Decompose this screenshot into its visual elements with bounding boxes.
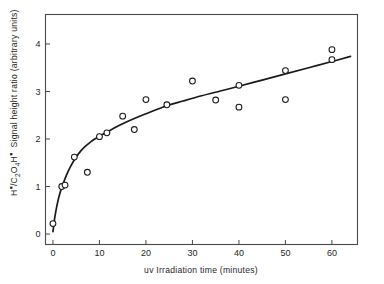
- data-point-marker: [329, 47, 335, 53]
- data-point-marker: [190, 78, 196, 84]
- y-tick-label: 1: [35, 182, 40, 192]
- data-point-marker: [283, 97, 289, 103]
- y-tick-label: 3: [35, 87, 40, 97]
- data-point-marker: [236, 104, 242, 110]
- data-point-marker: [164, 102, 170, 108]
- data-point-marker: [120, 113, 126, 119]
- y-title-h2-dot: ▪: [6, 153, 16, 156]
- y-tick-label: 4: [35, 39, 40, 49]
- data-point-marker: [283, 68, 289, 74]
- data-point-marker: [97, 134, 103, 140]
- data-point-marker: [71, 154, 77, 160]
- data-point-marker: [131, 127, 137, 133]
- data-point-marker: [143, 97, 149, 103]
- scatter-plot: 0102030405060 01234 uv Irradiation time …: [0, 0, 384, 284]
- data-point-marker: [104, 130, 110, 136]
- data-point-marker: [50, 221, 56, 227]
- y-title-slash: /C: [9, 177, 19, 186]
- data-point-marker: [213, 97, 219, 103]
- x-tick-label: 40: [234, 248, 244, 258]
- x-tick-label: 50: [280, 248, 290, 258]
- x-axis-title: uv Irradiation time (minutes): [144, 265, 258, 275]
- figure-container: 0102030405060 01234 uv Irradiation time …: [0, 0, 384, 284]
- x-tick-label: 30: [187, 248, 197, 258]
- y-title-o: O: [9, 166, 19, 173]
- svg-text:H▪/C2O4H▪Signal height ratio (: H▪/C2O4H▪Signal height ratio (arbitrary …: [6, 9, 21, 196]
- data-point-marker: [62, 182, 68, 188]
- x-tick-label: 0: [50, 248, 55, 258]
- y-axis-title: H▪/C2O4H▪Signal height ratio (arbitrary …: [6, 9, 21, 196]
- y-tick-label: 0: [35, 229, 40, 239]
- x-tick-label: 60: [327, 248, 337, 258]
- data-point-marker: [329, 57, 335, 63]
- x-tick-label: 20: [141, 248, 151, 258]
- y-tick-label: 2: [35, 134, 40, 144]
- y-title-rest: Signal height ratio (arbitrary units): [9, 9, 19, 147]
- data-point-marker: [236, 82, 242, 88]
- data-point-marker: [84, 169, 90, 175]
- x-tick-label: 10: [94, 248, 104, 258]
